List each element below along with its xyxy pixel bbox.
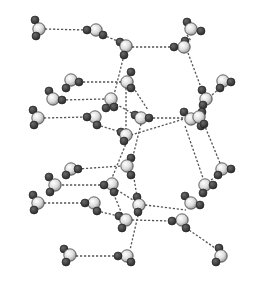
hydrogen-atom (214, 171, 222, 179)
hydrogen-atom (62, 84, 70, 92)
hydrogen-atom (216, 84, 224, 92)
hydrogen-atom (227, 165, 235, 173)
hydrogen-atom (83, 113, 91, 121)
hydrogen-atom (81, 199, 89, 207)
hydrogen-atom (145, 114, 153, 122)
hydrogen-atom (46, 188, 54, 196)
hydrogen-atom (127, 258, 135, 266)
hydrogen-atom (200, 120, 208, 128)
hydrogen-atom (30, 206, 38, 214)
hydrogen-atom (100, 181, 108, 189)
hydrogen-atom (110, 188, 118, 196)
background (0, 0, 268, 283)
water-hydrogen-bond-network-diagram (0, 0, 268, 283)
hydrogen-atom (93, 121, 101, 129)
hydrogen-atom (127, 68, 135, 76)
oxygen-atom (47, 93, 59, 105)
hydrogen-atom (209, 181, 217, 189)
hydrogen-atom (212, 258, 220, 266)
hydrogen-atom (182, 224, 190, 232)
hydrogen-atom (75, 78, 83, 86)
hydrogen-atom (197, 27, 205, 35)
hydrogen-atom (120, 51, 128, 59)
hydrogen-atom (110, 103, 118, 111)
oxygen-atom (178, 41, 190, 53)
hydrogen-atom (93, 207, 101, 215)
hydrogen-atom (134, 208, 142, 216)
hydrogen-atom (58, 96, 66, 104)
hydrogen-atom (99, 31, 107, 39)
hydrogen-atom (199, 101, 207, 109)
hydrogen-atom (118, 224, 126, 232)
hydrogen-atom (62, 171, 70, 179)
hydrogen-atom (170, 43, 178, 51)
hydrogen-atom (74, 165, 82, 173)
hydrogen-atom (196, 201, 204, 209)
hydrogen-atom (32, 32, 40, 40)
hydrogen-atom (199, 189, 207, 197)
hydrogen-atom (127, 171, 135, 179)
oxygen-atom (185, 23, 197, 35)
oxygen-atom (185, 197, 197, 209)
hydrogen-atom (120, 137, 128, 145)
hydrogen-atom (102, 104, 110, 112)
hydrogen-atom (114, 252, 122, 260)
hydrogen-atom (62, 258, 70, 266)
hydrogen-atom (227, 78, 235, 86)
oxygen-atom (120, 40, 132, 52)
hydrogen-atom (127, 84, 135, 92)
oxygen-atom (121, 160, 133, 172)
hydrogen-atom (168, 217, 176, 225)
hydrogen-atom (30, 121, 38, 129)
hydrogen-atom (83, 26, 91, 34)
